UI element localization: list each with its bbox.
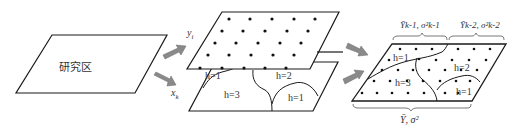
stratum-label-result-h2: h=2: [454, 62, 470, 73]
stratum-label-result-h1b: h=1: [456, 86, 472, 97]
stratum-label-mid-h3: h=3: [224, 89, 240, 100]
result-layer-panel: [352, 44, 506, 101]
brace-top-right-label: Ȳk-2, σ²k-2: [460, 20, 500, 30]
arrow-merge-top-icon: [346, 43, 368, 56]
sample-layer-panel: [187, 12, 343, 70]
brace-top-left-label: Ȳk-1, σ²k-1: [400, 20, 440, 30]
brace-bottom: [353, 104, 471, 111]
arrow-merge-bottom-icon: [343, 70, 364, 84]
brace-bottom-label: Ȳ, σ²: [400, 114, 419, 125]
brace-top-left: [393, 33, 447, 40]
stratum-label-mid-h1b: h=1: [288, 92, 304, 103]
arrow-to-auxiliary-layer-icon: [154, 72, 176, 86]
brace-top-right: [449, 33, 504, 40]
auxiliary-variable-label: xk: [171, 87, 179, 101]
stratified-sampling-diagram: 研究区 yi xk h=1 h=3 h=2 h=1 h=1 h=3 h=2 h=…: [0, 0, 521, 131]
study-area-label: 研究区: [59, 58, 92, 74]
stratum-label-mid-h1a: h=1: [205, 70, 221, 81]
arrow-to-sample-layer-icon: [163, 45, 186, 59]
stratum-label-mid-h2: h=2: [276, 70, 292, 81]
stratum-label-result-h3: h=3: [395, 77, 411, 88]
stratum-label-result-h1a: h=1: [393, 52, 409, 63]
sample-variable-label: yi: [187, 27, 193, 41]
